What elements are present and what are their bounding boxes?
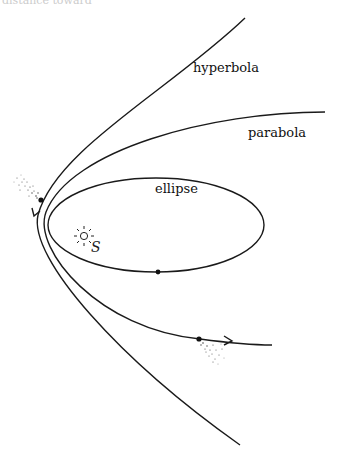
label-hyperbola: hyperbola — [193, 60, 259, 75]
hyperbola-arrow-icon — [32, 208, 40, 216]
comet-parabola-dot — [196, 336, 201, 341]
comet-tail-hyperbola — [14, 175, 39, 199]
label-ellipse: ellipse — [155, 181, 198, 196]
hyperbola-curve — [37, 18, 245, 445]
orbits-diagram: distance toward h — [0, 0, 340, 466]
planet-ellipse-dot — [156, 270, 161, 275]
parabola-arrow-icon — [224, 336, 232, 345]
comet-hyperbola-dot — [38, 197, 43, 202]
comet-tail-parabola — [200, 342, 224, 364]
label-parabola: parabola — [248, 125, 306, 140]
cut-off-text: distance toward — [2, 0, 92, 7]
label-sun: S — [91, 239, 101, 255]
